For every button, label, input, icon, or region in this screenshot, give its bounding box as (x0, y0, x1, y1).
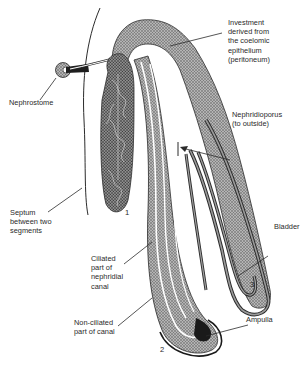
leader-septum (48, 188, 82, 212)
label-non-ciliated: Non-ciliated part of canal (74, 318, 115, 336)
number-loop-1: 1 (125, 208, 129, 217)
loop-1-body (101, 54, 134, 212)
label-ciliated: Ciliated part of nephridial canal (91, 254, 123, 291)
ampulla-shape (194, 318, 211, 341)
label-bladder: Bladder (274, 222, 299, 231)
label-nephridioporus: Nephridioporus (to outside) (232, 110, 282, 128)
septum-line (84, 8, 100, 215)
leader-nephrostome (40, 78, 56, 100)
leader-non-ciliated (118, 298, 152, 326)
label-investment: Investment derived from the coelomic epi… (228, 18, 270, 64)
number-loop-2: 2 (160, 345, 164, 354)
number-loop-3: 3 (250, 280, 254, 289)
label-ampulla: Ampulla (246, 315, 273, 324)
label-nephrostome: Nephrostome (9, 98, 53, 107)
label-septum: Septum between two segments (10, 208, 52, 236)
